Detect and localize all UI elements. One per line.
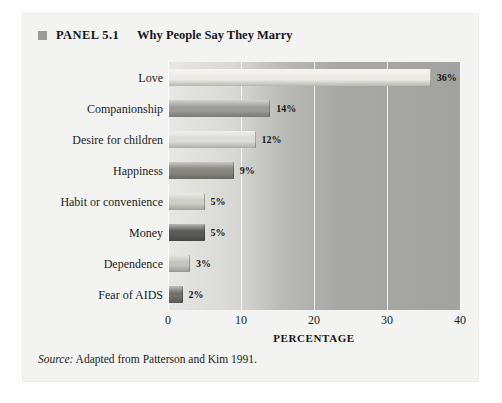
bar [168, 193, 205, 210]
bar-value-label: 3% [196, 259, 211, 269]
bar [168, 100, 270, 117]
panel-card: PANEL 5.1 Why People Say They Marry 36%1… [23, 14, 478, 381]
chart-region: 36%14%12%9%5%5%3%2% LoveCompanionshipDes… [23, 14, 478, 381]
bar-value-label: 9% [240, 166, 255, 176]
bar [168, 131, 256, 148]
bar [168, 162, 234, 179]
bar-value-label: 5% [211, 228, 226, 238]
panel-figure: PANEL 5.1 Why People Say They Marry 36%1… [0, 0, 502, 403]
bar-value-label: 14% [276, 104, 296, 114]
x-tick-label: 0 [165, 314, 171, 326]
x-tick-label: 20 [308, 314, 320, 326]
bar-value-label: 36% [437, 73, 457, 83]
x-tick-label: 10 [235, 314, 247, 326]
category-label: Dependence [104, 258, 163, 270]
bar-value-label: 2% [189, 290, 204, 300]
source-prefix: Source: [38, 353, 73, 365]
x-tick-label: 30 [381, 314, 393, 326]
bar [168, 69, 431, 86]
category-label: Happiness [113, 165, 163, 177]
bar [168, 286, 183, 303]
bar [168, 224, 205, 241]
plot-area: 36%14%12%9%5%5%3%2% [168, 62, 460, 310]
gridline [387, 62, 388, 310]
bar-value-label: 12% [262, 135, 282, 145]
x-axis-title: PERCENTAGE [168, 332, 460, 344]
category-label: Desire for children [72, 134, 163, 146]
category-label: Companionship [87, 103, 163, 115]
source-text: Adapted from Patterson and Kim 1991. [73, 353, 257, 365]
gridline [460, 62, 461, 310]
category-label: Habit or convenience [60, 196, 163, 208]
x-tick-label: 40 [454, 314, 466, 326]
category-label: Love [138, 72, 163, 84]
category-axis-labels: LoveCompanionshipDesire for childrenHapp… [43, 62, 163, 310]
bar-value-label: 5% [211, 197, 226, 207]
source-note: Source: Adapted from Patterson and Kim 1… [38, 353, 257, 365]
category-label: Money [129, 227, 163, 239]
category-label: Fear of AIDS [98, 289, 163, 301]
gridline [314, 62, 315, 310]
bar [168, 255, 190, 272]
y-axis-line [168, 62, 169, 310]
